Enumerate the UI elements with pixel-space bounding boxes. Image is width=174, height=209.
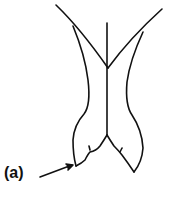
left-lobe-inner	[76, 135, 107, 166]
right-lobe-tick	[120, 148, 122, 152]
right-upper-arm	[108, 9, 162, 68]
left-upper-arm	[56, 5, 108, 68]
diagram-drawing	[0, 0, 174, 209]
right-body-outline	[127, 32, 143, 172]
left-lobe-tick	[89, 146, 90, 150]
left-body-outline	[73, 26, 89, 166]
label-a: (a)	[4, 164, 24, 182]
right-lobe-inner	[107, 135, 134, 172]
arrowhead-icon	[66, 164, 73, 170]
